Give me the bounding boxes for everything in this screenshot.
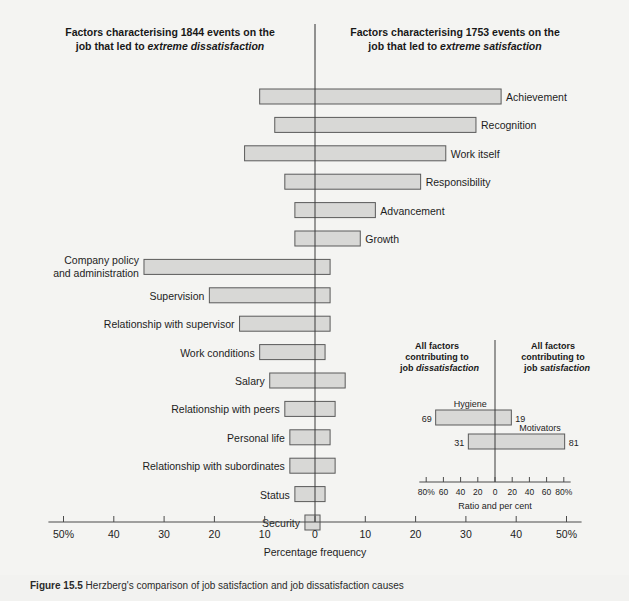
- herzberg-chart: Factors characterising 1844 events on th…: [0, 0, 629, 575]
- bar-label-work-conditions: Work conditions: [180, 347, 255, 359]
- inset-bar-hygiene: [436, 410, 512, 425]
- inset-right-title-line1: All factors: [531, 341, 575, 351]
- x-axis-tick-label: 30: [158, 528, 170, 540]
- bar-label-advancement: Advancement: [380, 205, 444, 217]
- inset-bar-motivators: [468, 434, 564, 449]
- bar-company-policy-and-administration: [144, 259, 330, 274]
- bar-personal-life: [290, 430, 330, 445]
- inset-value-left-hygiene: 69: [422, 414, 432, 424]
- bar-supervision: [209, 288, 330, 303]
- bar-label-growth: Growth: [365, 233, 399, 245]
- inset-axis-tick-label: 60: [439, 487, 449, 497]
- inset-axis-tick-label: 40: [456, 487, 466, 497]
- inset-left-title-line2: contributing to: [405, 352, 469, 362]
- bar-label-personal-life: Personal life: [227, 432, 285, 444]
- inset-axis-tick-label: 80%: [418, 487, 435, 497]
- bar-label-achievement: Achievement: [506, 91, 567, 103]
- inset-axis-tick-label: 80%: [555, 487, 572, 497]
- x-axis-tick-label: 0: [312, 528, 318, 540]
- x-axis-tick-label: 10: [359, 528, 371, 540]
- bar-label-work-itself: Work itself: [451, 148, 500, 160]
- inset-bar-label-hygiene: Hygiene: [454, 399, 487, 409]
- bar-advancement: [295, 203, 375, 218]
- inset-value-left-motivators: 31: [454, 438, 464, 448]
- bar-label-relationship-with-subordinates: Relationship with subordinates: [142, 460, 284, 472]
- bar-label-salary: Salary: [235, 375, 266, 387]
- bar-label-recognition: Recognition: [481, 119, 537, 131]
- caption-text: Herzberg's comparison of job satisfactio…: [86, 580, 404, 591]
- bar-relationship-with-supervisor: [240, 316, 331, 331]
- bar-salary: [270, 373, 345, 388]
- figure-panel: Factors characterising 1844 events on th…: [0, 0, 629, 575]
- bar-work-itself: [245, 146, 446, 161]
- bar-status: [295, 487, 325, 502]
- inset-axis-title: Ratio and per cent: [458, 501, 532, 511]
- x-axis-tick-label: 20: [209, 528, 221, 540]
- left-header-line1: Factors characterising 1844 events on th…: [65, 26, 275, 38]
- bar-label-relationship-with-peers: Relationship with peers: [171, 403, 280, 415]
- bar-label-relationship-with-supervisor: Relationship with supervisor: [104, 318, 235, 330]
- x-axis-tick-label: 10: [259, 528, 271, 540]
- x-axis-tick-label: 30: [460, 528, 472, 540]
- bar-label-company-policy-and-administration: Company policy: [64, 254, 139, 266]
- figure-caption: Figure 15.5 Herzberg's comparison of job…: [30, 580, 610, 591]
- x-axis-tick-label: 40: [108, 528, 120, 540]
- inset-axis-tick-label: 60: [542, 487, 552, 497]
- x-axis-tick-label: 40: [510, 528, 522, 540]
- bar-relationship-with-peers: [285, 401, 335, 416]
- x-axis-tick-label: 50%: [556, 528, 577, 540]
- inset-axis-tick-label: 20: [507, 487, 517, 497]
- inset-left-title-line3: job dissatisfaction: [399, 363, 480, 373]
- inset-right-title-line3: job satisfaction: [523, 363, 591, 373]
- inset-axis-tick-label: 0: [493, 487, 498, 497]
- bar-label-supervision: Supervision: [149, 290, 204, 302]
- inset-bar-label-motivators: Motivators: [519, 423, 561, 433]
- bar-label-company-policy-and-administration-line2: and administration: [53, 267, 139, 279]
- inset-left-title-line1: All factors: [415, 341, 459, 351]
- caption-label: Figure 15.5: [30, 580, 83, 591]
- x-axis-tick-label: 50%: [53, 528, 74, 540]
- inset-axis-tick-label: 20: [473, 487, 483, 497]
- inset-axis-tick-label: 40: [525, 487, 535, 497]
- inset-right-title-line2: contributing to: [521, 352, 585, 362]
- right-header-line1: Factors characterising 1753 events on th…: [350, 26, 560, 38]
- x-axis-title: Percentage frequency: [264, 546, 367, 558]
- bar-label-status: Status: [260, 489, 290, 501]
- left-header-line2: job that led to extreme dissatisfaction: [75, 40, 264, 52]
- bar-growth: [295, 231, 360, 246]
- right-header-line2: job that led to extreme satisfaction: [367, 40, 541, 52]
- inset-value-right-motivators: 81: [569, 438, 579, 448]
- bar-recognition: [275, 117, 476, 132]
- bar-responsibility: [285, 174, 421, 189]
- bar-label-responsibility: Responsibility: [426, 176, 492, 188]
- x-axis-tick-label: 20: [410, 528, 422, 540]
- bar-achievement: [260, 89, 501, 104]
- bar-relationship-with-subordinates: [290, 458, 335, 473]
